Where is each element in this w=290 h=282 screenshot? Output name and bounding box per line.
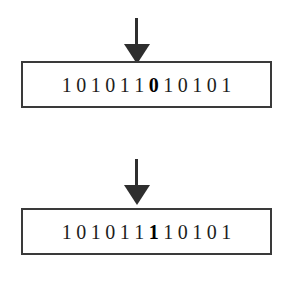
bit-2: 1 bbox=[89, 74, 104, 96]
bit-1: 0 bbox=[74, 74, 89, 96]
stage-after-flip: 101011110101 bbox=[0, 141, 290, 282]
bit-11: 1 bbox=[219, 221, 234, 243]
bitstring-box-after: 101011110101 bbox=[21, 208, 272, 255]
bit-4: 1 bbox=[118, 74, 133, 96]
bitstring-after: 101011110101 bbox=[60, 221, 234, 243]
bit-flip-figure: 101011010101 101011110101 bbox=[0, 0, 290, 282]
bit-10: 0 bbox=[205, 221, 220, 243]
bit-10: 0 bbox=[205, 74, 220, 96]
bit-7: 1 bbox=[161, 74, 176, 96]
bitstring-box-before: 101011010101 bbox=[21, 61, 272, 108]
arrow-shaft bbox=[135, 159, 138, 188]
bit-5: 1 bbox=[132, 221, 147, 243]
bit-5: 1 bbox=[132, 74, 147, 96]
bit-2: 1 bbox=[89, 221, 104, 243]
bit-7: 1 bbox=[161, 221, 176, 243]
stage-before-flip: 101011010101 bbox=[0, 0, 290, 141]
bit-4: 1 bbox=[118, 221, 133, 243]
bit-9: 1 bbox=[190, 74, 205, 96]
bit-3: 0 bbox=[103, 74, 118, 96]
bit-9: 1 bbox=[190, 221, 205, 243]
bit-0: 1 bbox=[60, 74, 75, 96]
bit-6: 0 bbox=[147, 74, 162, 96]
bit-1: 0 bbox=[74, 221, 89, 243]
down-arrow-icon bbox=[124, 18, 150, 64]
bitstring-before: 101011010101 bbox=[60, 74, 234, 96]
bit-8: 0 bbox=[176, 221, 191, 243]
arrow-shaft bbox=[135, 18, 138, 47]
down-arrow-icon bbox=[124, 159, 150, 205]
bit-11: 1 bbox=[219, 74, 234, 96]
bit-0: 1 bbox=[60, 221, 75, 243]
bit-8: 0 bbox=[176, 74, 191, 96]
arrow-head bbox=[124, 185, 150, 205]
bit-6: 1 bbox=[147, 221, 162, 243]
bit-3: 0 bbox=[103, 221, 118, 243]
